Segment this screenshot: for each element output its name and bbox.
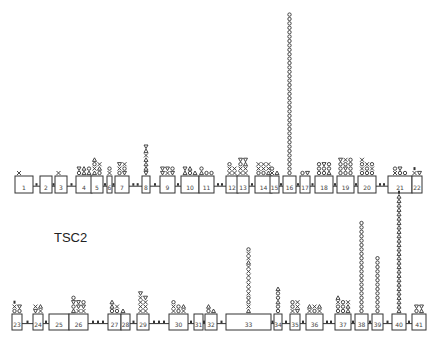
mutation-mark [82,305,86,309]
mutation-mark [139,292,143,296]
exon-19: 19 [337,158,354,193]
mutation-mark [77,171,80,174]
mutation-mark [376,257,379,260]
exon-33: 33 [226,248,271,330]
exon-number: 25 [55,321,63,328]
exon-number: 10 [186,184,194,191]
mutation-mark [341,301,344,304]
mutation-mark [327,163,330,166]
mutation-mark [247,287,251,291]
mutation-mark [365,171,368,174]
mutation-mark [288,88,291,91]
exon-30: 30 [169,301,188,331]
mutation-mark [39,305,43,309]
mutation-mark [115,309,118,312]
mutation-mark [123,167,126,170]
mutation-mark [397,265,401,269]
mutation-mark [397,278,401,282]
mutation-mark [262,162,266,166]
mutation-mark [267,162,271,166]
mutation-mark [397,291,401,295]
mutation-mark [123,171,127,175]
mutation-mark [313,309,316,312]
exon-23: 23 [12,301,22,330]
mutation-mark [144,305,148,309]
mutation-mark [418,171,422,175]
exon-26: 26 [69,296,88,330]
exon-number: 23 [13,321,21,328]
mutation-mark [365,162,369,166]
exon-row-2: 23242526272829303132333435363738394041 [12,191,426,330]
mutation-mark [349,171,352,174]
mutation-mark [87,171,91,175]
mutation-mark [397,274,401,278]
mutation-mark [288,17,291,20]
mutation-mark [317,163,320,166]
mutation-mark [239,158,243,162]
mutation-mark [288,101,291,104]
mutation-mark [144,309,148,313]
mutation-mark [397,234,401,238]
mutation-mark [397,195,401,199]
mutation-mark [239,171,243,175]
exon-number: 2 [44,184,48,191]
mutation-mark [346,309,350,313]
mutation-mark [360,270,363,273]
exon-number: 32 [207,321,215,328]
exon-31: 31 [194,314,203,330]
exon-1: 1 [15,171,33,193]
mutation-mark [414,167,416,170]
mutation-mark [288,22,291,25]
mutation-mark [288,13,291,16]
mutation-mark [247,274,251,278]
mutation-mark [288,61,291,64]
exon-number: 19 [342,184,350,191]
mutation-mark [118,171,121,174]
mutation-mark [360,301,363,304]
mutation-mark [360,287,363,290]
mutation-mark [288,123,291,126]
mutation-mark [288,39,291,42]
exon-number: 41 [415,321,423,328]
exon-number: 3 [59,184,63,191]
mutation-mark [200,167,203,170]
mutation-mark [349,158,352,161]
mutation-mark [403,171,406,174]
mutation-mark [288,167,291,170]
mutation-mark [177,309,180,312]
mutation-mark [193,171,197,175]
mutation-mark [172,309,176,313]
mutation-mark [72,296,75,299]
mutation-mark [244,162,248,166]
mutation-mark [257,167,261,171]
mutation-mark [247,305,251,309]
mutation-mark [172,301,175,304]
exon-number: 31 [195,321,203,328]
mutation-mark [247,261,251,265]
mutation-mark [247,269,251,273]
mutation-mark [228,167,232,171]
exon-39: 39 [372,257,383,331]
mutation-mark [360,252,363,255]
mutation-mark [317,171,320,174]
exon-number: 27 [111,321,119,328]
mutation-mark [288,171,291,174]
mutation-mark [98,167,102,171]
mutation-mark [77,305,81,309]
mutation-mark [346,305,350,309]
mutation-mark [72,305,75,308]
mutation-mark [288,35,291,38]
mutation-mark [322,171,325,174]
mutation-mark [247,296,250,299]
mutation-mark [322,163,326,167]
mutation-mark [257,162,261,166]
mutation-mark [339,163,342,166]
mutation-mark [288,83,291,86]
mutation-mark [13,305,17,309]
mutation-mark [413,171,417,175]
mutation-mark [360,274,363,277]
mutation-mark [18,305,22,309]
mutation-mark [288,92,291,95]
mutation-mark [376,287,379,290]
exon-16: 16 [283,13,296,193]
